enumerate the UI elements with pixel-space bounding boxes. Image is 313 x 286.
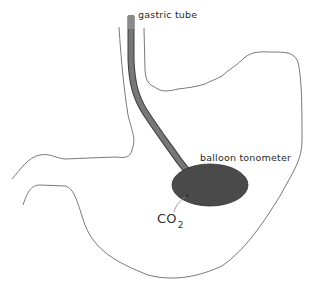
co2-label: CO2: [157, 211, 184, 226]
co2-arrow-head: [186, 195, 189, 198]
balloon-tonometer: [172, 164, 248, 206]
balloon-tonometer-label: balloon tonometer: [200, 152, 291, 163]
diagram-canvas: [0, 0, 313, 286]
gastric-tube-tip: [128, 15, 134, 29]
esophagus-left-wall: [12, 27, 134, 179]
co2-subscript: 2: [178, 220, 184, 230]
gastric-tube-label: gastric tube: [138, 9, 197, 20]
gastric-tube: [131, 16, 188, 172]
gastric-tonometry-diagram: gastric tube balloon tonometer CO2: [0, 0, 313, 286]
co2-main-text: CO: [157, 211, 177, 226]
